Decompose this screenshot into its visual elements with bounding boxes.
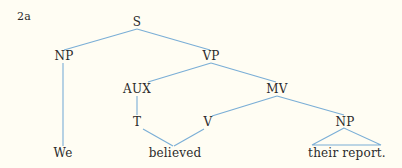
leaf-their-report: their report. [308, 146, 386, 160]
edge-s-np [64, 29, 137, 50]
edge-mv-np [277, 96, 344, 115]
node-np-object: NP [336, 115, 355, 129]
leaf-believed: believed [149, 146, 202, 160]
leaf-we: We [54, 146, 73, 160]
node-t: T [133, 115, 141, 129]
node-vp: VP [202, 49, 219, 63]
edge-vp-aux [148, 63, 211, 82]
np-triangle [312, 128, 381, 145]
edge-v-believed [174, 129, 204, 146]
edge-s-vp [137, 29, 210, 50]
node-mv: MV [266, 82, 287, 96]
node-v: V [204, 115, 213, 129]
edge-t-believed [143, 129, 173, 146]
edge-vp-mv [211, 63, 276, 82]
tree-edges [0, 0, 402, 168]
example-number: 2a [17, 10, 31, 24]
edge-mv-v [212, 96, 277, 116]
node-np-subject: NP [55, 49, 74, 63]
node-aux: AUX [123, 82, 151, 96]
node-s: S [133, 15, 141, 29]
